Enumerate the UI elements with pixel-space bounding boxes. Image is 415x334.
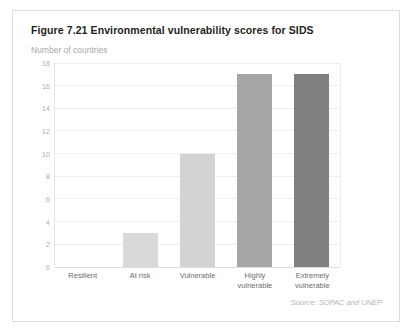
y-axis-tick-label: 2 <box>46 240 50 249</box>
bar-slot <box>169 63 226 267</box>
y-axis-tick-label: 14 <box>42 104 50 113</box>
figure-card: Figure 7.21 Environmental vulnerability … <box>12 10 400 322</box>
bar-series <box>55 63 340 267</box>
y-axis-tick-label: 4 <box>46 217 50 226</box>
x-axis-tick-label: Extremelyvulnerable <box>284 271 341 291</box>
y-axis: 181614121086420 <box>31 63 53 267</box>
x-axis-tick-label: Highlyvulnerable <box>226 271 283 291</box>
x-axis-tick-label-line: Highly <box>227 271 282 281</box>
page-title: Figure 7.21 Environmental vulnerability … <box>31 24 314 36</box>
bar-slot <box>226 63 283 267</box>
x-axis-tick-label: Vulnerable <box>169 271 226 291</box>
bar[interactable] <box>294 74 329 267</box>
chart-plot-wrapper: 181614121086420 ResilientAt riskVulnerab… <box>31 63 383 285</box>
x-axis-tick-label: At risk <box>111 271 168 291</box>
x-axis-tick-label-line: vulnerable <box>227 281 282 291</box>
bar-slot <box>55 63 112 267</box>
y-axis-tick-label: 0 <box>46 263 50 272</box>
source-note: Source: SOPAC and UNEP <box>291 298 382 307</box>
x-axis: ResilientAt riskVulnerableHighlyvulnerab… <box>54 271 341 291</box>
bar-slot <box>112 63 169 267</box>
bar[interactable] <box>237 74 272 267</box>
x-axis-tick-label-line: At risk <box>112 271 167 281</box>
bar[interactable] <box>180 154 215 267</box>
y-axis-tick-label: 12 <box>42 126 50 135</box>
bar[interactable] <box>123 233 158 267</box>
y-axis-tick-label: 6 <box>46 194 50 203</box>
x-axis-tick-label-line: Extremely <box>285 271 340 281</box>
x-axis-tick-label-line: vulnerable <box>285 281 340 291</box>
plot-area <box>54 63 341 267</box>
y-axis-unit-label: Number of countries <box>31 45 108 55</box>
x-axis-tick-label-line: Resilient <box>55 271 110 281</box>
bar-slot <box>283 63 340 267</box>
y-axis-tick-label: 16 <box>42 81 50 90</box>
x-axis-tick-label: Resilient <box>54 271 111 291</box>
y-axis-tick-label: 8 <box>46 172 50 181</box>
x-axis-tick-label-line: Vulnerable <box>170 271 225 281</box>
y-axis-tick-label: 10 <box>42 149 50 158</box>
y-axis-tick-label: 18 <box>42 59 50 68</box>
